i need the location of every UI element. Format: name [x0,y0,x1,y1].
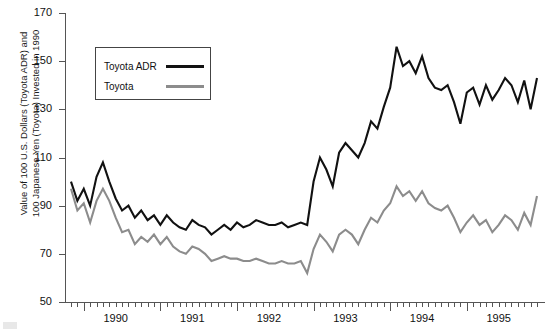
x-tick [492,303,493,307]
x-tick [409,303,410,307]
x-tick [218,303,219,307]
x-tick [358,303,359,307]
x-tick [511,303,512,307]
y-tick-label: 150 [0,54,52,66]
x-tick [256,303,257,307]
x-tick [473,303,474,307]
x-tick [403,303,404,307]
legend-swatch-toyota-adr [166,65,204,68]
legend-box: Toyota ADR Toyota [95,47,211,100]
x-tick [243,303,244,307]
x-tick [84,303,85,311]
x-tick [77,303,78,307]
x-tick [109,303,110,307]
x-tick [460,303,461,307]
x-tick [333,303,334,307]
x-tick [269,303,270,307]
x-tick [371,303,372,307]
x-tick [390,303,391,311]
x-tick [301,303,302,307]
x-tick-label: 1993 [325,312,365,324]
legend-item-toyota: Toyota [104,78,204,94]
x-tick [103,303,104,307]
x-tick [480,303,481,307]
x-tick [141,303,142,307]
legend-label-toyota-adr: Toyota ADR [104,61,166,72]
corner-artifact [3,322,17,329]
y-axis-label: Value of 100 U.S. Dollars (Toyota ADR) a… [18,0,41,249]
x-tick [154,303,155,307]
x-tick [352,303,353,307]
x-tick [71,303,72,307]
x-tick [231,303,232,307]
x-tick-label: 1995 [479,312,519,324]
legend-item-toyota-adr: Toyota ADR [104,58,204,74]
x-tick-label: 1992 [249,312,289,324]
x-tick [122,303,123,307]
x-tick [339,303,340,307]
x-tick-label: 1990 [96,312,136,324]
y-tick-label: 90 [0,199,52,211]
x-tick [365,303,366,307]
x-tick [384,303,385,307]
x-tick [435,303,436,307]
y-tick [59,302,65,303]
x-tick [441,303,442,307]
x-tick [428,303,429,307]
x-tick [320,303,321,307]
x-tick [397,303,398,307]
x-tick [422,303,423,307]
x-tick [205,303,206,307]
x-tick [294,303,295,307]
x-tick [537,303,538,307]
x-tick [467,303,468,311]
x-tick [531,303,532,307]
x-tick [211,303,212,307]
x-tick [448,303,449,307]
x-tick [90,303,91,307]
chart-container: Value of 100 U.S. Dollars (Toyota ADR) a… [0,0,557,335]
x-tick [307,303,308,307]
y-tick-label: 110 [0,151,52,163]
x-tick [518,303,519,307]
legend-swatch-toyota [166,85,204,88]
series-line-toyota [71,186,537,273]
x-tick [416,303,417,307]
x-tick [180,303,181,307]
y-tick-label: 130 [0,102,52,114]
x-tick [192,303,193,307]
x-tick [454,303,455,307]
x-tick [128,303,129,307]
x-tick [486,303,487,307]
x-tick [199,303,200,307]
x-tick [282,303,283,307]
x-tick [224,303,225,307]
x-tick [275,303,276,307]
x-tick [314,303,315,311]
x-tick [116,303,117,307]
x-tick-label: 1994 [402,312,442,324]
x-tick [288,303,289,307]
x-tick [505,303,506,307]
x-tick [345,303,346,307]
x-tick [250,303,251,307]
x-tick [237,303,238,311]
x-tick [135,303,136,307]
y-tick-label: 170 [0,6,52,18]
x-tick [377,303,378,307]
x-tick [326,303,327,307]
x-tick [97,303,98,307]
y-tick-label: 70 [0,247,52,259]
x-tick [499,303,500,307]
y-tick-label: 50 [0,295,52,307]
x-tick-label: 1991 [172,312,212,324]
x-tick [148,303,149,307]
legend-label-toyota: Toyota [104,81,166,92]
x-tick [160,303,161,311]
x-tick [167,303,168,307]
x-tick [263,303,264,307]
x-tick [186,303,187,307]
x-tick [524,303,525,307]
x-tick [173,303,174,307]
